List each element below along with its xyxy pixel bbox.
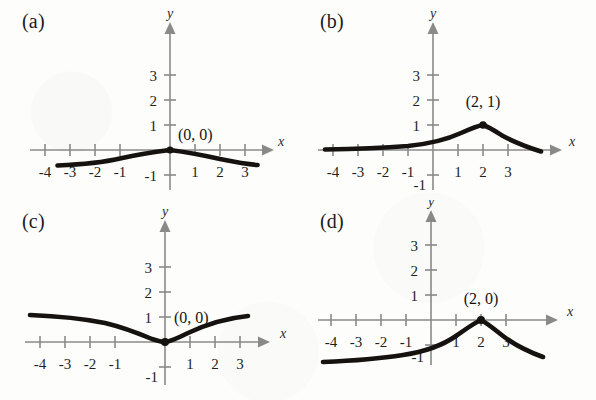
panel-a-ytick-3: 3 [150,68,158,84]
panel-c-y-axis-label: y [160,204,169,219]
panel-b-y-axis [427,22,439,190]
panel-d-point-marker [477,316,485,324]
panel-a-ytick-2: 2 [150,93,158,109]
panel-a-plot: -4 -3 -2 -1 1 2 3 1 2 3 -1 x y (0, 0) [0,0,298,200]
panel-b-ytick--1: -1 [414,177,427,193]
panel-d-xtick--2: -2 [375,334,388,350]
panel-d-x-axis [318,314,558,326]
panel-d: (d) -4 -3 [298,200,596,400]
panel-d-ytick-1: 1 [411,288,419,304]
panel-b-xtick--3: -3 [352,164,365,180]
panel-c-xtick--1: -1 [109,356,122,372]
panel-c-xtick-3: 3 [236,356,244,372]
panel-d-ytick-3: 3 [411,238,419,254]
panel-d-y-tick-labels: 1 2 3 -1 [411,238,425,365]
panel-d-ytick-2: 2 [411,263,419,279]
panel-c-point-label: (0, 0) [174,309,209,327]
panel-d-y-axis [425,210,437,365]
panel-b-point-label: (2, 1) [466,93,501,111]
panel-d-x-axis-label: x [566,304,574,319]
panel-d-xtick--4: -4 [325,334,338,350]
panel-a-ytick--1: -1 [145,168,158,184]
panel-d-xtick--3: -3 [350,334,363,350]
panel-a-xtick--2: -2 [89,164,102,180]
panel-a-xtick-2: 2 [216,164,224,180]
panel-c-x-tick-labels: -4 -3 -2 -1 1 2 3 [34,356,244,372]
panel-c-y-axis [159,220,171,385]
panel-a-y-axis [164,22,176,190]
panel-d-plot: -4 -3 -2 -1 1 2 3 1 2 3 -1 x y (2, 0) [298,200,596,400]
panel-c-xtick--3: -3 [59,356,72,372]
panel-c-point-marker [161,338,169,346]
panel-b-ytick-1: 1 [413,118,421,134]
panel-b-y-axis-label: y [428,6,437,21]
panel-b-xtick--1: -1 [402,164,415,180]
panel-b-ytick-2: 2 [413,93,421,109]
panel-a-ytick-1: 1 [150,118,158,134]
panel-c-x-axis-label: x [279,326,287,341]
panel-a-point-marker [166,146,173,153]
panel-c: (c) -4 -3 [0,200,298,400]
panel-a-xtick--4: -4 [39,164,52,180]
panel-b-xtick-2: 2 [479,164,487,180]
panel-d-xtick--1: -1 [400,334,413,350]
panel-c-ytick-1: 1 [145,310,153,326]
panel-b-point-marker [479,121,487,129]
panel-c-xtick-2: 2 [211,356,219,372]
panel-b-xtick--2: -2 [377,164,390,180]
panel-b: (b) -4 -3 [298,0,596,200]
panel-c-xtick--2: -2 [84,356,97,372]
panel-b-y-tick-labels: 1 2 3 -1 [413,68,427,193]
panel-b-xtick-3: 3 [504,164,512,180]
panel-d-point-label: (2, 0) [464,290,499,308]
panel-d-x-tick-labels: -4 -3 -2 -1 1 2 3 [325,334,510,350]
panel-a-x-axis-label: x [277,134,285,149]
panel-b-plot: -4 -3 -2 -1 1 2 3 1 2 3 -1 x y (2, 1) [298,0,596,200]
panel-a: (a) [0,0,298,200]
panel-a-point-label: (0, 0) [178,126,213,144]
panel-c-y-tick-labels: 1 2 3 -1 [145,260,159,385]
panel-a-curve [58,150,258,166]
panel-a-y-tick-labels: 1 2 3 -1 [145,68,158,184]
panel-d-y-axis-label: y [426,200,435,209]
figure-four-graphs: (a) [0,0,596,400]
panel-b-x-axis-label: x [568,134,576,149]
panel-b-xtick-1: 1 [454,164,462,180]
panel-a-xtick-3: 3 [241,164,249,180]
panel-c-xtick-1: 1 [186,356,194,372]
panel-b-xtick--4: -4 [327,164,340,180]
panel-a-xtick--1: -1 [114,164,127,180]
panel-a-xtick-1: 1 [191,164,199,180]
panel-c-ytick--1: -1 [146,369,159,385]
panel-c-xtick--4: -4 [34,356,47,372]
panel-c-ytick-3: 3 [145,260,153,276]
panel-d-xtick-2: 2 [477,334,485,350]
panel-c-plot: -4 -3 -2 -1 1 2 3 1 2 3 -1 x y (0, 0) [0,200,298,400]
panel-b-ytick-3: 3 [413,68,421,84]
panel-a-y-axis-label: y [165,6,174,21]
panel-c-ytick-2: 2 [145,285,153,301]
